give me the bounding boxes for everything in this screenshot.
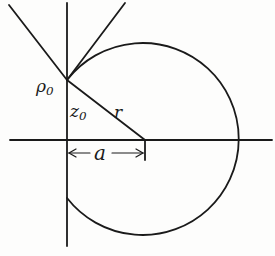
diagram-canvas: ρ0 z0 r a [0, 0, 275, 256]
label-rho0: ρ0 [36, 78, 54, 98]
circle-arc [67, 43, 239, 235]
label-a: a [94, 143, 106, 163]
diagram-figure [0, 0, 275, 256]
label-rho0-base: ρ [36, 76, 46, 96]
label-r: r [114, 104, 122, 121]
label-z0: z0 [70, 103, 87, 123]
cone-line-right [67, 3, 125, 80]
label-z0-base: z [70, 101, 79, 121]
cone-line-left [9, 5, 67, 80]
label-rho0-sub: 0 [46, 84, 54, 98]
label-z0-sub: 0 [79, 109, 87, 123]
